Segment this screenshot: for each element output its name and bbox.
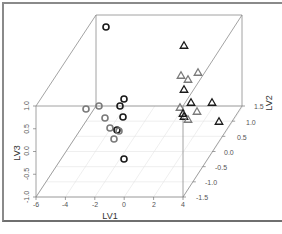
3d-box: [36, 15, 242, 197]
triangle-point: [208, 99, 216, 106]
circle-point: [121, 96, 127, 102]
y-axis-label: LV2: [264, 95, 274, 110]
y-tick-label: -0.5: [215, 164, 227, 171]
triangle-point: [187, 99, 195, 106]
z-tick-label: -0.5: [23, 168, 30, 180]
triangle-point: [184, 76, 192, 83]
x-axis-label: LV1: [102, 211, 117, 221]
y-tick-label: 0.0: [224, 149, 234, 156]
x-tick-label: 0: [122, 201, 126, 208]
scatter3d-plot: -6 -4 -2 0 2 4 LV1 -1.0 -0.5 0.0 0.5 1.0…: [0, 0, 282, 234]
data-points: [83, 24, 223, 162]
y-tick-label: -1.0: [205, 179, 217, 186]
z-tick-label: 0.0: [23, 146, 30, 156]
y-tick-label: -1.5: [196, 194, 208, 201]
triangle-point: [180, 86, 188, 93]
triangle-point: [180, 42, 188, 49]
y-tick-label: 1.5: [254, 103, 264, 110]
triangle-point: [194, 69, 202, 76]
circle-point: [103, 24, 109, 30]
triangle-point: [177, 72, 185, 79]
z-tick-label: 0.5: [23, 124, 30, 134]
circle-point: [111, 136, 117, 142]
x-tick-label: -2: [92, 201, 98, 208]
circle-point: [120, 114, 126, 120]
circle-point: [83, 106, 89, 112]
x-tick-label: -6: [33, 201, 39, 208]
circle-point: [102, 115, 108, 121]
circle-point: [121, 156, 127, 162]
circle-point: [107, 125, 113, 131]
x-tick-label: 2: [152, 201, 156, 208]
z-tick-label: -1.0: [23, 191, 30, 203]
y-tick-label: 0.5: [237, 134, 247, 141]
triangle-point: [193, 108, 201, 115]
z-axis-label: LV3: [12, 145, 22, 160]
x-tick-label: -4: [62, 201, 68, 208]
z-tick-label: 1.0: [23, 101, 30, 111]
x-tick-label: 4: [181, 201, 185, 208]
y-tick-label: 1.0: [246, 119, 256, 126]
